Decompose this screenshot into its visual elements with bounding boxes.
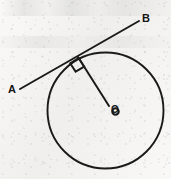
geometry-figure: A B O xyxy=(0,0,171,179)
circle-shape xyxy=(48,53,164,169)
point-label-a: A xyxy=(8,84,16,95)
figure-canvas xyxy=(0,0,171,179)
point-label-b: B xyxy=(142,13,150,24)
point-label-o: O xyxy=(111,105,119,115)
